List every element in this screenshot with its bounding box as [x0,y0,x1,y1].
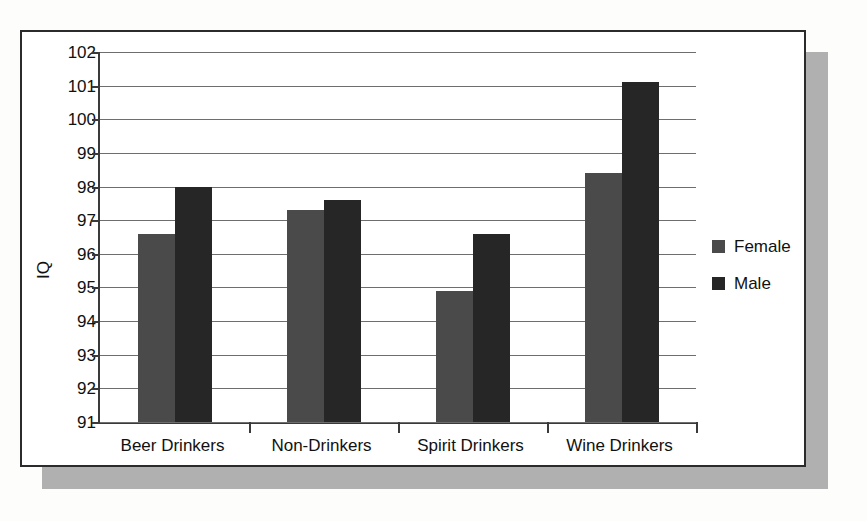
y-axis-tick-label: 97 [48,212,96,229]
y-axis-tick-mark [92,287,100,289]
y-axis-tick-label: 102 [48,44,96,61]
legend-label: Male [734,274,771,294]
bar-female-wine-drinkers [585,173,622,422]
y-axis-tick-mark [92,153,100,155]
x-axis-label-non-drinkers: Non-Drinkers [271,436,371,456]
x-axis-tick-mark [547,422,549,433]
page-root: IQ 102101100999897969594939291 Beer Drin… [0,0,867,521]
legend-label: Female [734,237,791,257]
x-axis-label-beer-drinkers: Beer Drinkers [121,436,225,456]
y-axis-tick-mark [92,52,100,54]
bar-female-non-drinkers [287,210,324,422]
chart-legend: FemaleMale [712,228,822,302]
y-axis-tick-mark [92,388,100,390]
x-axis-tick-mark [249,422,251,433]
y-axis-tick-label: 99 [48,144,96,161]
y-axis-tick-labels: 102101100999897969594939291 [48,40,96,432]
legend-item-female[interactable]: Female [712,228,822,265]
female-swatch-icon [712,240,725,253]
y-axis-tick-mark [92,254,100,256]
x-axis-tick-mark [696,422,698,433]
x-axis-label-spirit-drinkers: Spirit Drinkers [417,436,524,456]
bars-layer [100,52,696,422]
bar-male-beer-drinkers [175,187,212,422]
bar-male-spirit-drinkers [473,234,510,422]
bar-male-wine-drinkers [622,82,659,422]
plot-area [98,52,696,424]
male-swatch-icon [712,277,725,290]
y-axis-tick-label: 91 [48,414,96,431]
chart-panel: IQ 102101100999897969594939291 Beer Drin… [20,30,806,467]
y-axis-tick-mark [92,187,100,189]
y-axis-tick-label: 98 [48,178,96,195]
x-axis-tick-mark [398,422,400,433]
y-axis-tick-mark [92,422,100,424]
chart-plot-wrapper: IQ 102101100999897969594939291 Beer Drin… [22,32,804,465]
y-axis-tick-label: 96 [48,245,96,262]
y-axis-tick-label: 101 [48,77,96,94]
x-axis-category-labels: Beer DrinkersNon-DrinkersSpirit Drinkers… [98,436,694,470]
bar-female-beer-drinkers [138,234,175,422]
legend-item-male[interactable]: Male [712,265,822,302]
y-axis-tick-label: 95 [48,279,96,296]
y-axis-tick-mark [92,220,100,222]
y-axis-tick-label: 94 [48,313,96,330]
y-axis-tick-mark [92,321,100,323]
x-axis-label-wine-drinkers: Wine Drinkers [566,436,673,456]
y-axis-tick-mark [92,355,100,357]
y-axis-tick-label: 93 [48,346,96,363]
y-axis-tick-mark [92,119,100,121]
y-axis-tick-mark [92,86,100,88]
y-axis-tick-label: 100 [48,111,96,128]
y-axis-tick-label: 92 [48,380,96,397]
bar-female-spirit-drinkers [436,291,473,422]
bar-male-non-drinkers [324,200,361,422]
